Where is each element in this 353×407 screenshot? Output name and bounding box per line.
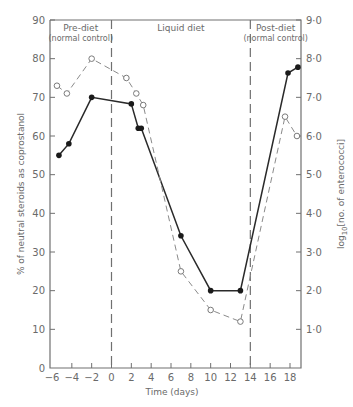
y-tick-label: 90 [32,15,45,26]
y2-tick-label: 2·0 [306,285,322,296]
x-tick-label: 2 [128,372,134,383]
data-point-open [133,91,139,97]
data-point-filled [178,233,184,239]
phase-label: Post-diet [256,23,296,33]
y-tick-label: 80 [32,53,45,64]
y-tick-label: 20 [32,285,45,296]
x-tick-label: 4 [148,372,154,383]
data-point-filled [56,153,62,159]
x-tick-label: 18 [284,372,297,383]
phase-dividers: Pre-diet(normal control)Liquid dietPost-… [48,20,307,368]
data-point-open [54,83,60,89]
y-tick-label: 40 [32,208,45,219]
y-axis-label: % of neutral steroids as coprostanol [16,113,26,275]
y-tick-label: 30 [32,247,45,258]
data-point-open [208,307,214,313]
y2-axis-label: log10[no. of enterococci] [336,139,349,249]
y2-tick-label: 6·0 [306,131,322,142]
axes: 01020304050607080901·02·03·04·05·06·07·0… [32,15,322,384]
x-tick-label: 0 [108,372,114,383]
plot-frame [50,20,301,368]
y-tick-label: 70 [32,92,45,103]
data-point-filled [89,95,95,101]
chart: 01020304050607080901·02·03·04·05·06·07·0… [0,0,353,407]
data-point-open [124,75,130,81]
data-series [54,56,301,325]
phase-sublabel: (normal control) [243,34,308,43]
x-tick-label: −4 [64,372,79,383]
x-tick-label: −6 [45,372,60,383]
y2-tick-label: 8·0 [306,53,322,64]
x-tick-label: 12 [224,372,237,383]
phase-label: Liquid diet [157,23,205,33]
y-tick-label: 10 [32,324,45,335]
y-tick-label: 50 [32,169,45,180]
data-point-open [64,91,70,97]
data-point-open [89,56,95,62]
x-tick-label: 10 [204,372,217,383]
data-point-open [178,269,184,275]
phase-sublabel: (normal control) [48,34,113,43]
x-tick-label: 6 [168,372,174,383]
x-tick-label: 16 [264,372,277,383]
y2-tick-label: 9·0 [306,15,322,26]
data-point-filled [285,70,291,76]
y2-tick-label: 1·0 [306,324,322,335]
y2-tick-label: 7·0 [306,92,322,103]
y-tick-label: 60 [32,131,45,142]
phase-label: Pre-diet [63,23,98,33]
y2-tick-label: 4·0 [306,208,322,219]
data-point-filled [129,101,135,107]
y2-tick-label: 5·0 [306,169,322,180]
x-tick-label: 8 [188,372,194,383]
data-point-open [238,319,244,325]
data-point-open [294,133,300,139]
coprostanol-line [59,67,298,291]
data-point-filled [238,288,244,294]
data-point-filled [138,125,144,131]
data-point-filled [208,288,214,294]
data-point-open [282,114,288,120]
data-point-filled [66,141,72,147]
data-point-filled [295,64,301,70]
x-tick-label: −2 [84,372,99,383]
x-tick-label: 14 [244,372,257,383]
y2-axis-label-text: log10[no. of enterococci] [336,139,349,249]
data-point-open [140,102,146,108]
y2-tick-label: 3·0 [306,247,322,258]
x-axis-label: Time (days) [144,387,198,397]
